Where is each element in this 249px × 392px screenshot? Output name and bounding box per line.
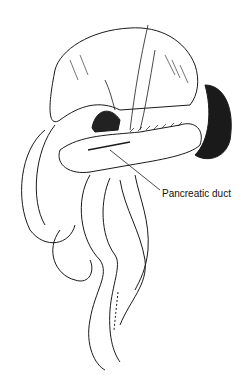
spleen (195, 85, 231, 159)
surgical-illustration: Pancreatic duct (0, 0, 249, 392)
suture-line (114, 292, 118, 330)
duodenum (22, 125, 75, 243)
label-pointer (110, 150, 160, 190)
pancreatic-duct (88, 142, 130, 150)
opening (92, 111, 120, 132)
pancreas (59, 124, 201, 173)
jejunum (81, 175, 105, 370)
stomach (50, 28, 198, 122)
pancreatic-duct-label: Pancreatic duct (162, 188, 231, 199)
